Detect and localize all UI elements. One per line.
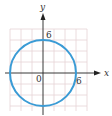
coordinate-plane: y x 0 6 6 — [0, 0, 112, 116]
origin-label: 0 — [36, 74, 42, 84]
y-axis-arrow-icon — [41, 13, 46, 20]
x-axis-label: x — [104, 68, 109, 78]
x-intercept-label: 6 — [76, 76, 82, 86]
y-axis-label: y — [39, 2, 46, 12]
x-axis-arrow-icon — [94, 71, 101, 76]
y-intercept-label: 6 — [46, 30, 52, 40]
